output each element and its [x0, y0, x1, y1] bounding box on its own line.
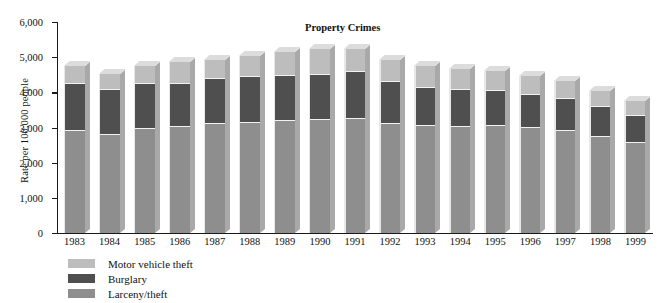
bar-segment-burglary — [554, 99, 575, 131]
bar-left-edge — [414, 66, 416, 233]
bar-left-edge — [379, 60, 381, 233]
bar-group — [624, 101, 645, 233]
bar-stack — [624, 101, 645, 233]
bar-stack — [344, 49, 365, 233]
bar-side-face — [400, 56, 405, 233]
bar-segment-burglary — [134, 84, 155, 129]
bar-segment-motor — [484, 71, 505, 91]
bar-group — [309, 49, 330, 233]
bar-segment-burglary — [519, 95, 540, 128]
bar-segment-larceny — [589, 137, 610, 233]
bar-left-edge — [309, 49, 311, 233]
y-axis-tick-label: 6,000 — [19, 17, 43, 28]
bar-segment-motor — [204, 60, 225, 79]
bar-stack — [239, 56, 260, 233]
bar-segment-motor — [134, 66, 155, 84]
bar-side-face — [295, 48, 300, 233]
bar-segment-larceny — [204, 124, 225, 233]
legend-swatch-burglary — [68, 274, 95, 283]
bar-left-edge — [169, 62, 171, 233]
bar-segment-motor — [344, 49, 365, 72]
bar-segment-motor — [169, 62, 190, 84]
bar-left-edge — [554, 81, 556, 233]
bar-side-face — [260, 53, 265, 233]
bar-segment-burglary — [239, 77, 260, 123]
bar-group — [239, 56, 260, 233]
legend-item: Burglary — [68, 271, 193, 286]
bar-segment-larceny — [64, 131, 85, 233]
bar-stack — [309, 49, 330, 233]
y-axis-tick-label: 0 — [38, 228, 43, 239]
bar-stack — [274, 52, 295, 233]
bar-segment-burglary — [414, 88, 435, 126]
legend-label: Burglary — [108, 273, 147, 285]
bar-segment-motor — [589, 91, 610, 107]
legend: Motor vehicle theftBurglaryLarceny/theft — [68, 256, 193, 301]
plot-area: 6,0005,0004,0003,0002,0001,0000 19831984… — [57, 22, 653, 233]
bar-segment-burglary — [344, 72, 365, 119]
bar-segment-larceny — [624, 143, 645, 233]
bar-segment-motor — [624, 101, 645, 116]
bar-group — [589, 91, 610, 233]
bar-stack — [169, 62, 190, 233]
bar-side-face — [645, 98, 650, 233]
bar-side-face — [470, 65, 475, 233]
bar-segment-burglary — [64, 84, 85, 131]
y-axis-tick-label: 4,000 — [19, 87, 43, 98]
bar-left-edge — [204, 60, 206, 233]
bar-segment-motor — [64, 66, 85, 84]
bar-segment-larceny — [519, 128, 540, 233]
bar-group — [449, 69, 470, 233]
bar-group — [169, 62, 190, 233]
bar-segment-motor — [239, 56, 260, 76]
x-axis-label: 1986 — [162, 236, 197, 247]
bar-stack — [554, 81, 575, 233]
bar-segment-larceny — [274, 121, 295, 233]
bar-left-edge — [484, 71, 486, 233]
bar-stack — [414, 66, 435, 233]
bar-segment-motor — [519, 76, 540, 95]
bar-segment-burglary — [379, 82, 400, 124]
x-axis-label: 1994 — [443, 236, 478, 247]
bar-side-face — [330, 46, 335, 233]
legend-item: Larceny/theft — [68, 286, 193, 301]
legend-swatch-motor — [68, 259, 95, 268]
bar-segment-larceny — [169, 127, 190, 233]
bar-segment-burglary — [589, 107, 610, 137]
bar-group — [379, 60, 400, 233]
bar-group — [519, 76, 540, 233]
bar-stack — [379, 60, 400, 233]
bar-segment-burglary — [309, 75, 330, 121]
x-axis-label: 1995 — [478, 236, 513, 247]
x-axis-label: 1988 — [232, 236, 267, 247]
bar-segment-burglary — [169, 84, 190, 127]
bar-left-edge — [449, 69, 451, 233]
bar-left-edge — [64, 66, 66, 233]
bar-left-edge — [589, 91, 591, 233]
bar-stack — [589, 91, 610, 233]
y-axis-tick: 0 — [52, 233, 57, 234]
bar-segment-larceny — [554, 131, 575, 233]
bar-segment-motor — [414, 66, 435, 88]
bar-stack — [64, 66, 85, 233]
x-axis-label: 1992 — [373, 236, 408, 247]
bar-side-face — [435, 62, 440, 233]
bar-left-edge — [624, 101, 626, 233]
bar-segment-larceny — [379, 124, 400, 233]
property-crimes-chart: Rate per 100,000 people Property Crimes … — [0, 0, 663, 303]
bar-segment-motor — [379, 60, 400, 82]
y-axis-tick-label: 1,000 — [19, 192, 43, 203]
bar-side-face — [155, 62, 160, 233]
x-axis-line — [57, 233, 653, 234]
bar-group — [484, 71, 505, 233]
bar-segment-burglary — [274, 76, 295, 121]
x-axis-label: 1996 — [513, 236, 548, 247]
bar-segment-larceny — [309, 120, 330, 233]
x-axis-label: 1998 — [583, 236, 618, 247]
bar-side-face — [505, 67, 510, 233]
bar-segment-larceny — [134, 129, 155, 233]
bar-segment-burglary — [624, 116, 645, 143]
y-axis-tick-label: 2,000 — [19, 157, 43, 168]
x-axis-label: 1999 — [618, 236, 653, 247]
bar-left-edge — [134, 66, 136, 233]
